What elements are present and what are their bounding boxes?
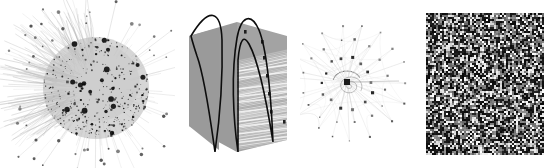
bipartite-svg <box>175 0 305 168</box>
panel-sparse-radial-network <box>300 0 420 168</box>
hairball-svg <box>0 0 180 168</box>
radial-svg <box>300 0 420 168</box>
radial-ring-edges <box>300 26 405 141</box>
panel-bipartite-edge-bundle <box>175 0 305 168</box>
panel-dense-hairball-network <box>0 0 180 168</box>
figure-root <box>0 0 560 168</box>
noise-matrix-canvas <box>426 13 544 155</box>
hairball-core-disc <box>43 37 149 139</box>
panel-adjacency-matrix-noise <box>420 0 560 168</box>
radial-hub-node <box>344 79 350 85</box>
